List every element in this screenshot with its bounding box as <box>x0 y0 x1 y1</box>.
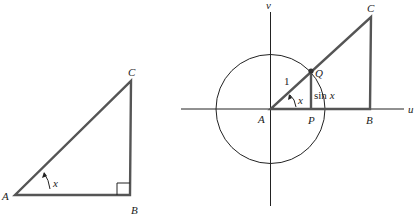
triangle-abc <box>15 81 131 195</box>
point-label-a: A <box>257 113 265 125</box>
point-label-b: B <box>366 114 373 126</box>
left-triangle: x A B C <box>1 66 138 216</box>
diagram-canvas: x A B C x 1 Q sinx A P B C u v <box>0 0 415 223</box>
sin-x-label: sinx <box>314 89 335 101</box>
point-q-dot <box>308 68 313 73</box>
point-label-q: Q <box>315 67 323 79</box>
axis-label-v: v <box>266 0 271 11</box>
point-label-p: P <box>307 114 315 126</box>
point-label-c: C <box>367 2 375 14</box>
vertex-label-a: A <box>1 190 9 202</box>
angle-label-x: x <box>52 177 58 189</box>
vertex-label-c: C <box>128 66 136 78</box>
unit-circle-figure: x 1 Q sinx A P B C u v <box>181 0 414 206</box>
right-angle-marker <box>117 183 130 195</box>
vertex-label-b: B <box>131 204 138 216</box>
radius-label: 1 <box>284 75 290 87</box>
axis-label-u: u <box>408 103 414 115</box>
angle-label-x: x <box>297 94 303 106</box>
